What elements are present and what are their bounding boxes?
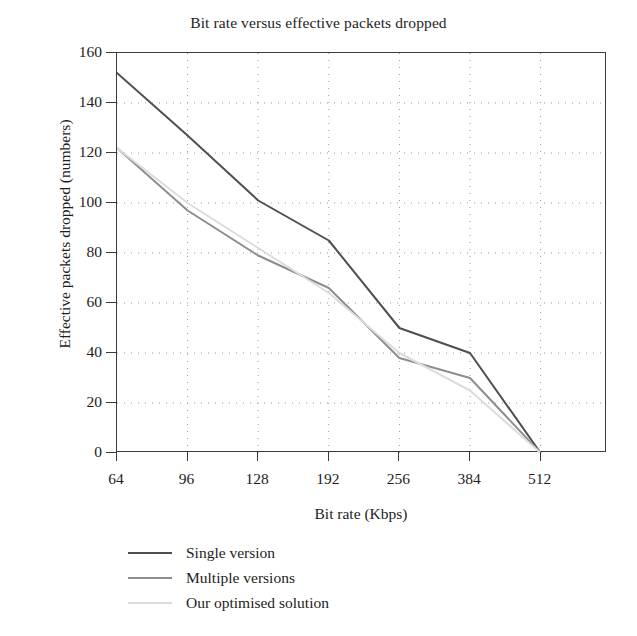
x-tick-mark	[398, 452, 399, 461]
legend-label: Multiple versions	[186, 569, 295, 587]
legend-label: Our optimised solution	[186, 594, 329, 612]
legend-item[interactable]: Multiple versions	[128, 565, 329, 590]
x-axis-title: Bit rate (Kbps)	[116, 505, 606, 523]
x-tick-mark	[328, 452, 329, 461]
y-tick-mark	[106, 102, 116, 103]
y-tick-label: 20	[40, 393, 102, 411]
y-tick-label: 80	[40, 243, 102, 261]
plot-area	[116, 52, 606, 452]
y-tick-mark	[106, 452, 116, 453]
y-tick-mark	[106, 352, 116, 353]
legend-item[interactable]: Single version	[128, 540, 329, 565]
y-tick-label: 40	[40, 343, 102, 361]
y-tick-label: 100	[40, 193, 102, 211]
legend-line-swatch	[128, 552, 172, 554]
y-tick-mark	[106, 152, 116, 153]
x-tick-label: 512	[505, 470, 575, 488]
x-tick-label: 256	[363, 470, 433, 488]
x-tick-label: 192	[293, 470, 363, 488]
x-tick-label: 64	[81, 470, 151, 488]
x-tick-label: 96	[152, 470, 222, 488]
legend-line-swatch	[128, 602, 172, 604]
y-tick-label: 140	[40, 93, 102, 111]
legend-item[interactable]: Our optimised solution	[128, 590, 329, 615]
y-tick-mark	[106, 252, 116, 253]
x-tick-mark	[469, 452, 470, 461]
y-tick-label: 0	[40, 443, 102, 461]
x-tick-mark	[540, 452, 541, 461]
legend-line-swatch	[128, 577, 172, 579]
y-tick-mark	[106, 202, 116, 203]
x-tick-mark	[187, 452, 188, 461]
y-tick-mark	[106, 402, 116, 403]
y-tick-mark	[106, 52, 116, 53]
chart-legend: Single versionMultiple versionsOur optim…	[128, 540, 329, 615]
chart-page: Bit rate versus effective packets droppe…	[0, 0, 637, 636]
y-tick-label: 160	[40, 43, 102, 61]
legend-label: Single version	[186, 544, 275, 562]
x-tick-mark	[116, 452, 117, 461]
x-tick-label: 128	[222, 470, 292, 488]
x-tick-mark	[257, 452, 258, 461]
y-tick-label: 60	[40, 293, 102, 311]
gridlines	[117, 53, 607, 453]
x-tick-label: 384	[434, 470, 504, 488]
plot-canvas	[117, 53, 607, 453]
chart-title: Bit rate versus effective packets droppe…	[0, 14, 637, 32]
y-tick-label: 120	[40, 143, 102, 161]
y-tick-mark	[106, 302, 116, 303]
